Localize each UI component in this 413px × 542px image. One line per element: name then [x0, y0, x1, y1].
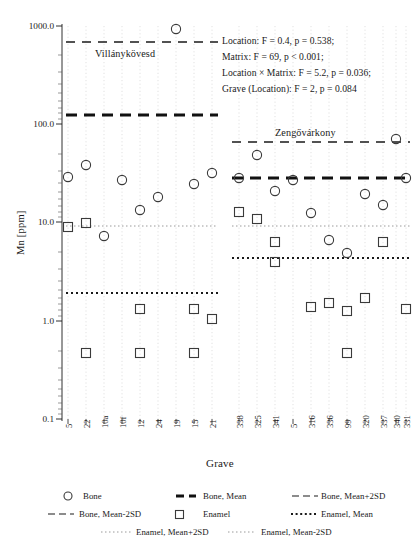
x-tick-label: 5: [65, 424, 74, 428]
stats-location: Location: F = 0.4, p = 0.538;: [222, 36, 334, 46]
bone-point: [171, 24, 180, 33]
legend-item-enamel-mean: Enamel, Mean: [321, 510, 373, 519]
x-tick-label: 337: [380, 415, 389, 428]
x-tick-label: 21: [209, 419, 218, 428]
x-tick-label: 10f: [119, 417, 128, 428]
legend-item-enamel: Enamel: [203, 510, 230, 519]
x-tick-label: 320: [362, 415, 371, 428]
y-axis-title: Mn [ppm]: [16, 211, 27, 255]
y-tick-label: 100.0: [12, 120, 54, 129]
legend-item-enamel-mean-minus-2sd: Enamel, Mean-2SD: [261, 528, 332, 537]
enamel-point: [64, 223, 73, 232]
group-label-zengovarkony: Zengővárkony: [275, 128, 336, 138]
legend-item-bone: Bone: [83, 492, 102, 501]
enamel-point: [343, 349, 352, 358]
x-tick-label: 99: [344, 419, 353, 428]
y-tick-label: 0.1: [12, 415, 54, 424]
bone-point: [378, 200, 387, 209]
x-tick-label: 340: [393, 415, 402, 428]
enamel-point: [253, 215, 262, 224]
legend-enamel-square-icon: [176, 511, 184, 519]
enamel-point: [190, 349, 199, 358]
stats-grave-location: Grave (Location): F = 2, p = 0.084: [222, 84, 357, 94]
enamel-point: [402, 305, 411, 314]
legend-item-bone-mean-minus-2sd: Bone, Mean-2SD: [79, 510, 141, 519]
y-axis-major-ticks: [56, 26, 62, 419]
x-tick-label: 338: [236, 415, 245, 428]
bone-point: [189, 179, 198, 188]
x-tick-label: 5: [290, 424, 299, 428]
x-axis-title: Grave: [206, 458, 234, 469]
y-axis-minor-ticks: [58, 55, 62, 414]
x-tick-label: 336: [326, 415, 335, 428]
enamel-point: [136, 305, 145, 314]
x-tick-label: 22: [83, 419, 92, 428]
x-tick-label: 316: [308, 415, 317, 428]
y-tick-label: 1.0: [12, 317, 54, 326]
enamel-point: [235, 208, 244, 217]
bone-point: [270, 186, 279, 195]
x-tick-label: 24: [155, 419, 164, 428]
enamel-point: [190, 305, 199, 314]
enamel-point: [82, 349, 91, 358]
x-tick-label: 331: [403, 415, 412, 428]
legend-item-bone-mean-plus-2sd: Bone, Mean+2SD: [321, 492, 385, 501]
legend-item-enamel-mean-plus-2sd: Enamel, Mean+2SD: [136, 528, 209, 537]
x-tick-label: 325: [254, 415, 263, 428]
bone-point: [81, 160, 90, 169]
x-tick-label: 10a: [101, 416, 110, 428]
bone-point: [324, 235, 333, 244]
bone-point: [153, 192, 162, 201]
x-tick-label: 12: [137, 419, 146, 428]
x-tick-label: 15: [191, 419, 200, 428]
y-tick-label: 1000.0: [12, 22, 54, 31]
legend-bone-circle-icon: [64, 492, 72, 500]
enamel-point: [361, 294, 370, 303]
group-label-villanykovesd: Villánykövesd: [95, 49, 155, 59]
enamel-data-points: [64, 208, 411, 358]
bone-point: [207, 168, 216, 177]
x-tick-label: 19: [173, 419, 182, 428]
stats-matrix: Matrix: F = 69, p < 0.001;: [222, 52, 324, 62]
mn-ppm-scatter-figure: 1000.0 100.0 10.0 1.0 0.1 Mn [ppm] 5 22 …: [0, 0, 413, 542]
stats-location-matrix: Location × Matrix: F = 5.2, p = 0.036;: [222, 68, 371, 78]
legend-item-bone-mean: Bone, Mean: [203, 492, 247, 501]
bone-point: [360, 189, 369, 198]
enamel-point: [136, 349, 145, 358]
x-tick-label: 341: [272, 415, 281, 428]
bone-point: [117, 175, 126, 184]
bone-point: [252, 150, 261, 159]
